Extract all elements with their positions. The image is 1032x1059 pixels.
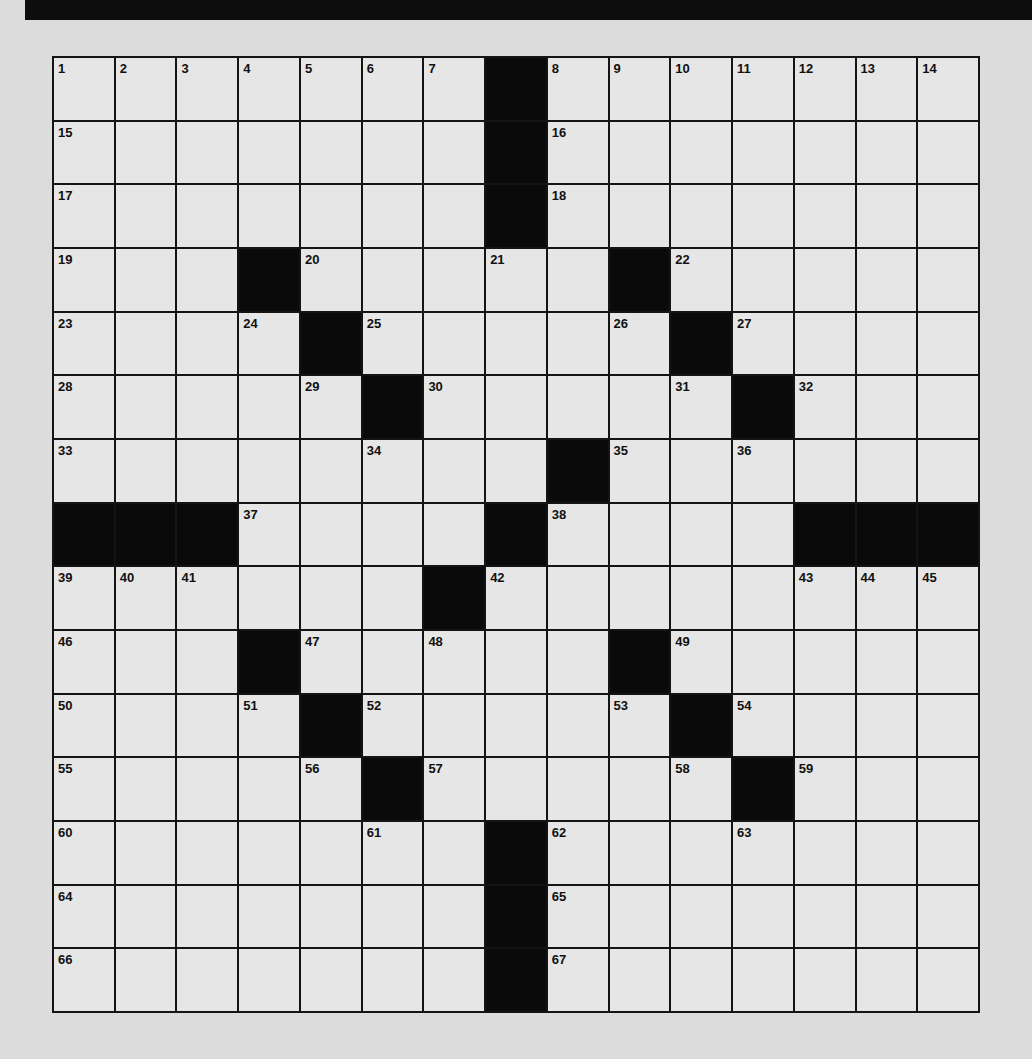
grid-cell[interactable] [177,695,237,757]
grid-cell[interactable] [424,504,484,566]
grid-cell[interactable] [918,122,978,184]
grid-cell[interactable]: 65 [548,886,608,948]
grid-cell[interactable] [239,758,299,820]
grid-cell[interactable] [857,695,917,757]
grid-cell[interactable] [610,758,670,820]
grid-cell[interactable] [857,822,917,884]
grid-cell[interactable] [301,949,361,1011]
grid-cell[interactable] [671,504,731,566]
grid-cell[interactable]: 45 [918,567,978,629]
grid-cell[interactable]: 59 [795,758,855,820]
grid-cell[interactable] [857,949,917,1011]
grid-cell[interactable] [610,949,670,1011]
grid-cell[interactable] [424,185,484,247]
grid-cell[interactable] [363,185,423,247]
grid-cell[interactable]: 31 [671,376,731,438]
grid-cell[interactable] [795,886,855,948]
grid-cell[interactable]: 18 [548,185,608,247]
grid-cell[interactable]: 58 [671,758,731,820]
grid-cell[interactable] [177,440,237,502]
grid-cell[interactable] [116,185,176,247]
grid-cell[interactable] [239,440,299,502]
grid-cell[interactable] [177,122,237,184]
grid-cell[interactable] [424,313,484,375]
grid-cell[interactable]: 14 [918,58,978,120]
grid-cell[interactable] [857,249,917,311]
grid-cell[interactable]: 30 [424,376,484,438]
grid-cell[interactable]: 66 [54,949,114,1011]
grid-cell[interactable]: 39 [54,567,114,629]
grid-cell[interactable]: 20 [301,249,361,311]
grid-cell[interactable] [177,758,237,820]
grid-cell[interactable] [548,313,608,375]
grid-cell[interactable] [116,122,176,184]
grid-cell[interactable] [671,185,731,247]
grid-cell[interactable]: 26 [610,313,670,375]
grid-cell[interactable]: 41 [177,567,237,629]
grid-cell[interactable] [548,758,608,820]
grid-cell[interactable]: 57 [424,758,484,820]
grid-cell[interactable] [301,886,361,948]
grid-cell[interactable] [918,249,978,311]
grid-cell[interactable] [795,631,855,693]
grid-cell[interactable] [795,695,855,757]
grid-cell[interactable] [857,631,917,693]
grid-cell[interactable]: 50 [54,695,114,757]
grid-cell[interactable] [363,504,423,566]
grid-cell[interactable] [486,758,546,820]
grid-cell[interactable]: 29 [301,376,361,438]
grid-cell[interactable] [301,504,361,566]
grid-cell[interactable]: 16 [548,122,608,184]
grid-cell[interactable] [795,185,855,247]
grid-cell[interactable] [918,695,978,757]
grid-cell[interactable] [301,567,361,629]
grid-cell[interactable] [795,249,855,311]
grid-cell[interactable]: 63 [733,822,793,884]
grid-cell[interactable] [177,313,237,375]
grid-cell[interactable]: 40 [116,567,176,629]
grid-cell[interactable] [733,185,793,247]
grid-cell[interactable] [733,886,793,948]
grid-cell[interactable]: 3 [177,58,237,120]
grid-cell[interactable]: 4 [239,58,299,120]
grid-cell[interactable]: 42 [486,567,546,629]
grid-cell[interactable]: 17 [54,185,114,247]
grid-cell[interactable]: 46 [54,631,114,693]
grid-cell[interactable]: 36 [733,440,793,502]
grid-cell[interactable] [363,631,423,693]
grid-cell[interactable] [795,949,855,1011]
grid-cell[interactable] [610,567,670,629]
grid-cell[interactable] [918,185,978,247]
grid-cell[interactable] [424,695,484,757]
grid-cell[interactable]: 1 [54,58,114,120]
grid-cell[interactable]: 48 [424,631,484,693]
grid-cell[interactable] [857,313,917,375]
grid-cell[interactable] [733,631,793,693]
grid-cell[interactable] [671,886,731,948]
grid-cell[interactable] [733,504,793,566]
grid-cell[interactable] [239,949,299,1011]
grid-cell[interactable] [857,122,917,184]
grid-cell[interactable] [610,376,670,438]
grid-cell[interactable] [486,376,546,438]
grid-cell[interactable] [795,122,855,184]
grid-cell[interactable] [795,822,855,884]
grid-cell[interactable] [239,122,299,184]
grid-cell[interactable] [918,376,978,438]
grid-cell[interactable]: 67 [548,949,608,1011]
grid-cell[interactable] [671,567,731,629]
grid-cell[interactable] [486,631,546,693]
grid-cell[interactable] [733,249,793,311]
grid-cell[interactable] [239,376,299,438]
grid-cell[interactable] [301,122,361,184]
grid-cell[interactable] [116,440,176,502]
grid-cell[interactable]: 9 [610,58,670,120]
grid-cell[interactable] [363,122,423,184]
grid-cell[interactable] [177,949,237,1011]
grid-cell[interactable]: 52 [363,695,423,757]
grid-cell[interactable] [733,567,793,629]
grid-cell[interactable]: 43 [795,567,855,629]
grid-cell[interactable] [918,822,978,884]
grid-cell[interactable]: 25 [363,313,423,375]
grid-cell[interactable] [116,758,176,820]
